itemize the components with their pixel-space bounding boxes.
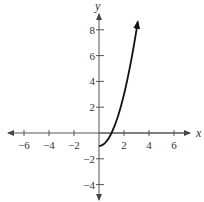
x-axis-label: x <box>195 126 202 140</box>
function-graph: −6−4−2246 −4−22468 x y <box>0 0 204 202</box>
y-axis-label: y <box>94 0 101 13</box>
y-tick-label: 4 <box>90 75 96 87</box>
x-tick-label: 6 <box>171 139 177 151</box>
y-tick-label: 8 <box>90 24 96 36</box>
curve-line <box>99 22 138 146</box>
y-ticks: −4−22468 <box>83 24 104 191</box>
y-tick-label: −2 <box>83 153 95 165</box>
x-tick-label: −6 <box>18 139 30 151</box>
x-tick-label: 4 <box>146 139 152 151</box>
x-tick-label: 2 <box>121 139 127 151</box>
x-tick-label: −4 <box>43 139 55 151</box>
y-tick-label: 2 <box>90 101 96 113</box>
y-tick-label: −4 <box>83 179 95 191</box>
x-tick-label: −2 <box>68 139 80 151</box>
y-tick-label: 6 <box>90 50 96 62</box>
